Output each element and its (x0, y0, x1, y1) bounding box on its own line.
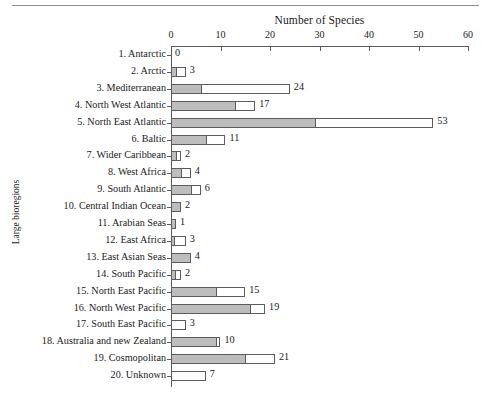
bar-row: 12. East Africa3 (171, 233, 468, 250)
category-label: 20. Unknown (111, 369, 166, 380)
stacked-bar (171, 337, 220, 347)
bar-row: 14. South Pacific2 (171, 267, 468, 284)
bar-segment-white (315, 118, 434, 128)
stacked-bar (171, 168, 191, 178)
bar-row: 20. Unknown7 (171, 368, 468, 385)
bar-value-label: 24 (294, 81, 304, 92)
bar-row: 1. Antarctic0 (171, 47, 468, 64)
bar-value-label: 17 (259, 98, 269, 109)
bar-segment-white (235, 101, 255, 111)
category-label: 7. Wider Caribbean (87, 149, 166, 160)
bar-segment-white (176, 67, 186, 77)
bar-row: 16. North West Pacific19 (171, 301, 468, 318)
bar-value-label: 4 (195, 250, 200, 261)
bar-segment-white (250, 304, 265, 314)
bar-value-label: 10 (225, 334, 235, 345)
bar-segment-white (245, 354, 275, 364)
bar-row: 7. Wider Caribbean2 (171, 148, 468, 165)
bar-row: 15. North East Pacific15 (171, 284, 468, 301)
category-label: 13. East Asian Seas (86, 251, 166, 262)
bar-row: 6. Baltic11 (171, 132, 468, 149)
stacked-bar (171, 354, 275, 364)
bar-value-label: 53 (437, 115, 447, 126)
bar-value-label: 1 (180, 216, 185, 227)
stacked-bar (171, 118, 433, 128)
bar-value-label: 3 (190, 317, 195, 328)
bar-segment-gray (171, 202, 181, 212)
bar-value-label: 3 (190, 233, 195, 244)
x-tick-label-30: 30 (305, 29, 335, 40)
category-label: 19. Cosmopolitan (94, 352, 166, 363)
bar-segment-gray (171, 337, 216, 347)
bar-plot-area: 1. Antarctic02. Arctic33. Mediterranean2… (171, 47, 468, 387)
stacked-bar (171, 320, 186, 330)
bar-segment-gray (171, 101, 235, 111)
category-label: 5. North East Atlantic (77, 116, 166, 127)
stacked-bar (171, 84, 290, 94)
category-label: 18. Australia and new Zealand (42, 335, 166, 346)
x-tick-60 (468, 46, 469, 51)
bar-segment-gray (171, 304, 250, 314)
bar-segment-gray (171, 219, 176, 229)
stacked-bar (171, 185, 201, 195)
bar-row: 11. Arabian Seas1 (171, 216, 468, 233)
bar-value-label: 4 (195, 165, 200, 176)
bar-segment-gray (171, 354, 245, 364)
category-label: 1. Antarctic (118, 48, 166, 59)
x-tick-label-20: 20 (255, 29, 285, 40)
stacked-bar (171, 236, 186, 246)
stacked-bar (171, 287, 245, 297)
bar-segment-gray (171, 84, 201, 94)
bar-segment-white (191, 185, 201, 195)
bar-segment-white (201, 84, 290, 94)
stacked-bar (171, 151, 181, 161)
y-tick-mark (167, 55, 171, 56)
bar-segment-gray (171, 135, 206, 145)
bar-row: 18. Australia and new Zealand10 (171, 334, 468, 351)
bar-segment-gray (171, 253, 191, 263)
bar-segment-white (175, 270, 181, 280)
bar-row: 8. West Africa4 (171, 165, 468, 182)
bar-value-label: 2 (185, 267, 190, 278)
bar-segment-white (171, 320, 186, 330)
x-tick-label-10: 10 (206, 29, 236, 40)
bar-segment-white (216, 337, 221, 347)
bar-row: 10. Central Indian Ocean2 (171, 199, 468, 216)
stacked-bar (171, 202, 181, 212)
category-label: 11. Arabian Seas (98, 217, 166, 228)
category-label: 2. Arctic (131, 65, 166, 76)
category-label: 4. North West Atlantic (75, 99, 166, 110)
bar-segment-gray (171, 287, 216, 297)
bar-segment-white (206, 135, 226, 145)
bar-segment-gray (171, 118, 315, 128)
bar-segment-white (174, 236, 186, 246)
bar-segment-white (216, 287, 246, 297)
bar-segment-white (171, 371, 206, 381)
category-label: 9. South Atlantic (97, 183, 166, 194)
bar-row: 5. North East Atlantic53 (171, 115, 468, 132)
bar-row: 3. Mediterranean24 (171, 81, 468, 98)
category-label: 14. South Pacific (96, 268, 166, 279)
bar-value-label: 11 (229, 132, 239, 143)
stacked-bar (171, 304, 265, 314)
x-tick-label-40: 40 (354, 29, 384, 40)
stacked-bar (171, 270, 181, 280)
category-label: 6. Baltic (131, 133, 166, 144)
bar-segment-white (176, 151, 181, 161)
category-label: 10. Central Indian Ocean (64, 200, 166, 211)
category-label: 12. East Africa (105, 234, 166, 245)
x-axis-title: Number of Species (171, 14, 468, 26)
bar-row: 19. Cosmopolitan21 (171, 351, 468, 368)
bar-row: 17. South East Pacific3 (171, 317, 468, 334)
stacked-bar (171, 371, 206, 381)
bar-row: 13. East Asian Seas4 (171, 250, 468, 267)
stacked-bar (171, 219, 176, 229)
bar-value-label: 2 (185, 148, 190, 159)
bar-segment-gray (171, 185, 191, 195)
y-axis-label: Large bioregions (11, 152, 21, 272)
bar-row: 9. South Atlantic6 (171, 182, 468, 199)
bar-value-label: 6 (205, 182, 210, 193)
bar-value-label: 19 (269, 301, 279, 312)
category-label: 3. Mediterranean (96, 82, 166, 93)
x-tick-label-0: 0 (156, 29, 186, 40)
